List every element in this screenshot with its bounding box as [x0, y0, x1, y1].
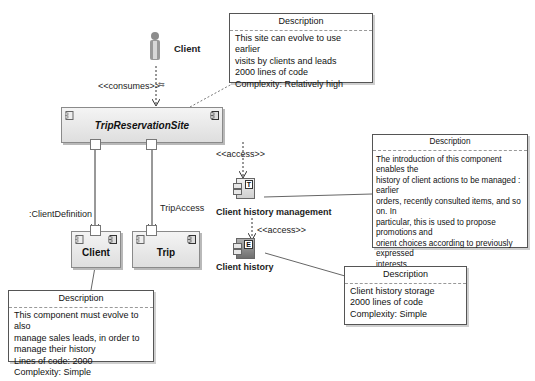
component-port-icon: [65, 111, 74, 120]
note-title: Description: [9, 291, 153, 308]
history-mgmt-name: Client history management: [216, 207, 332, 217]
note-line: 2000 lines of code: [235, 67, 367, 79]
note-line: The introduction of this component enabl…: [376, 155, 524, 176]
history-name: Client history: [216, 262, 274, 272]
access-label-2: <<access>>: [257, 225, 306, 235]
actor-figure-icon: [147, 31, 163, 63]
note-title: Description: [345, 267, 466, 284]
access-label-1: <<access>>: [216, 149, 265, 159]
note-line: particular, this is used to propose prom…: [376, 218, 524, 239]
note-title: Description: [230, 14, 372, 31]
component-port-icon: [75, 235, 84, 244]
note-history-mgmt-description: Description The introduction of this com…: [372, 134, 528, 248]
note-line: Client history storage: [350, 286, 461, 298]
component-client[interactable]: Client: [71, 231, 121, 268]
component-client-history-management[interactable]: T: [236, 178, 255, 199]
interface-icon: ⇆: [158, 80, 165, 89]
port-trip-access[interactable]: [146, 139, 157, 150]
note-line: orient choices according to previously e…: [376, 239, 524, 260]
client-name: Client: [82, 247, 110, 258]
note-line: orders, recently consulted items, and so…: [376, 197, 524, 218]
note-line: Complexity: Simple: [14, 367, 148, 379]
component-icon: [108, 235, 117, 244]
actor-client[interactable]: [147, 31, 163, 63]
port-trip[interactable]: [146, 225, 157, 236]
note-title: Description: [373, 135, 527, 151]
stereotype-letter: T: [245, 180, 253, 189]
port-client-definition[interactable]: [90, 139, 101, 150]
component-icon: [187, 235, 196, 244]
note-line: 2000 lines of code: [350, 297, 461, 309]
component-trip-reservation-site[interactable]: TripReservationSite: [61, 107, 223, 143]
note-line: manage sales leads, in order to: [14, 333, 148, 345]
site-name: TripReservationSite: [95, 120, 189, 131]
component-client-history[interactable]: E: [236, 238, 255, 259]
trip-access-label: TripAccess: [160, 203, 204, 213]
component-icon: [210, 111, 219, 120]
consumes-label: <<consumes>>: [98, 81, 160, 91]
component-trip[interactable]: Trip: [132, 231, 200, 268]
note-line: Complexity: Relatively high: [235, 79, 367, 91]
note-line: This site can evolve to use earlier: [235, 33, 367, 56]
note-line: manage their history: [14, 344, 148, 356]
note-line: Lines of code: 2000: [14, 356, 148, 368]
note-history-description: Description Client history storage 2000 …: [344, 266, 467, 325]
note-client-description: Description This component must evolve t…: [8, 290, 154, 362]
trip-name: Trip: [157, 247, 175, 258]
note-site-description: Description This site can evolve to use …: [229, 13, 373, 83]
actor-name: Client: [174, 43, 200, 54]
component-port-icon: [136, 235, 145, 244]
client-definition-label: :ClientDefinition: [29, 209, 92, 219]
note-line: Complexity: Simple: [350, 309, 461, 321]
note-line: history of client actions to be managed …: [376, 176, 524, 197]
port-client[interactable]: [90, 225, 101, 236]
stereotype-letter: E: [244, 240, 253, 249]
note-line: This component must evolve to also: [14, 310, 148, 333]
note-line: visits by clients and leads: [235, 56, 367, 68]
